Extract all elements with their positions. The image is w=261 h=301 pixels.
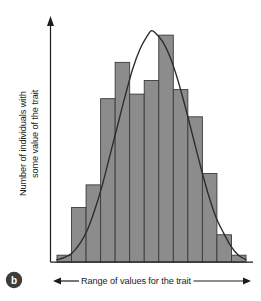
x-axis-label-text: Range of values for the trait [81,276,192,286]
y-axis-label-line1: Number of individuals with [18,91,28,196]
histogram-bar [115,62,130,262]
histogram-bar [101,99,116,262]
histogram-bar [130,94,145,262]
histogram-bar [217,235,232,262]
histogram-bar [144,81,159,262]
histogram-bar [72,208,87,262]
panel-letter-text: b [11,275,17,286]
panel-letter-badge: b [6,272,22,288]
histogram-chart: Number of individuals with some value of… [0,0,261,301]
histogram-bar [202,174,217,262]
histogram-bar [188,117,203,262]
figure-panel-b: Number of individuals with some value of… [0,0,261,301]
histogram-bar [173,90,188,262]
y-axis-label-line2: some value of the trait [30,89,40,178]
histogram-bar [159,35,174,262]
